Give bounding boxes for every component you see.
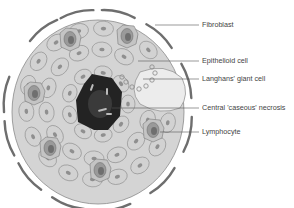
lymphocyte (90, 159, 111, 182)
label-fibroblast: Fibroblast (202, 20, 234, 29)
lymphocyte (117, 25, 138, 48)
lymphocyte (24, 82, 45, 105)
fibroblast (4, 77, 10, 112)
label-langhans-giant-cell: Langhans' giant cell (202, 74, 265, 83)
lymphocyte (60, 28, 81, 51)
lymphocyte (40, 137, 61, 160)
fibroblast (183, 117, 191, 152)
lymphocyte (143, 119, 164, 142)
label-lymphocyte: Lymphocyte (202, 127, 241, 136)
fibroblast (102, 10, 135, 18)
fibroblast (97, 204, 130, 208)
label-caseous-necrosis: Central 'caseous' necrosis (202, 103, 285, 112)
label-epithelioid-cell: Epithelioid cell (202, 56, 248, 65)
fibroblast (61, 10, 94, 18)
cell-nucleus (126, 101, 130, 106)
epithelioid-cell (121, 95, 135, 113)
